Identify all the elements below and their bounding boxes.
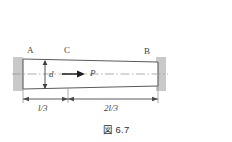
dimension-2-arrow-right <box>152 97 158 101</box>
dimension-1-arrow-right <box>62 97 68 101</box>
dimension-label-2: 2l/3 <box>104 104 118 113</box>
dimension-1-arrow-left <box>23 97 29 101</box>
figure-page: A C B d P l/3 2l/3 図 6.7 <box>0 0 232 142</box>
dimension-2-arrow-left <box>68 97 74 101</box>
dimension-label-1: l/3 <box>38 104 48 113</box>
figure-caption: 図 6.7 <box>0 122 232 136</box>
point-label-c: C <box>64 46 70 55</box>
diameter-label: d <box>49 70 54 79</box>
beam-diagram <box>0 0 232 142</box>
point-label-b: B <box>144 47 150 56</box>
force-label: P <box>90 69 96 78</box>
point-label-a: A <box>27 46 34 55</box>
